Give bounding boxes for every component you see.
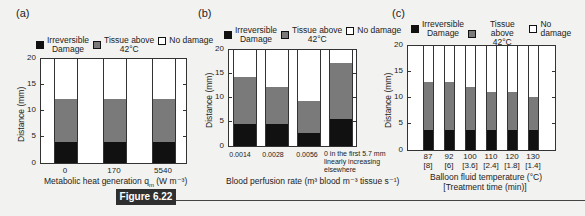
stacked-bar (103, 59, 127, 163)
x-axis-label-b: Blood perfusion rate (m³ blood m⁻³ tissu… (226, 176, 399, 186)
bar-segment-no-damage (266, 50, 288, 87)
bar-segment-tissue-above-42-c (487, 91, 496, 129)
stacked-bar (465, 46, 476, 150)
bar-segment-irreversible-damage (153, 142, 175, 163)
panel-a-label: (a) (16, 7, 29, 19)
bar-segment-irreversible-damage (529, 130, 538, 150)
stacked-bar (486, 46, 497, 150)
bar-segment-irreversible-damage (330, 119, 352, 146)
legend-b: IrreversibleDamage Tissue above42°C No d… (224, 26, 405, 44)
ytick-b: 15 (210, 68, 224, 77)
bar-segment-irreversible-damage (424, 130, 433, 150)
panel-c-label: (c) (392, 7, 405, 19)
ytick-c: 0 (389, 145, 403, 154)
xtick-b: 0.0014 (225, 150, 255, 159)
ytick-a: 5 (22, 131, 36, 140)
tick-mark (41, 136, 44, 137)
ytick-b: 5 (210, 116, 224, 125)
swatch-irreversible-icon (411, 25, 419, 33)
stacked-bar (329, 50, 353, 146)
bar-segment-irreversible-damage (508, 130, 517, 150)
swatch-irreversible-icon (224, 31, 232, 39)
bar-segment-irreversible-damage (445, 130, 454, 150)
ytick-a: 10 (22, 105, 36, 114)
xtick-b: 0.0028 (258, 150, 288, 159)
swatch-none-icon (346, 27, 354, 35)
bar-segment-tissue-above-42-c (424, 81, 433, 129)
legend-item-irreversible: IrreversibleDamage (224, 26, 277, 44)
plot-area-c (407, 45, 556, 151)
bar-segment-tissue-above-42-c (445, 81, 454, 129)
legend-item-irreversible: IrreversibleDamage (36, 36, 89, 54)
bar-segment-no-damage (153, 59, 175, 99)
legend-item-irreversible: IrreversibleDamage (411, 20, 464, 38)
xtick-c: 130[1.4] (521, 152, 545, 170)
bar-segment-irreversible-damage (298, 133, 320, 146)
tick-mark (552, 97, 555, 98)
bar-segment-no-damage (55, 59, 77, 99)
tick-mark (408, 97, 411, 98)
tick-mark (183, 110, 186, 111)
legend-item-tissue: Tissue above42°C (93, 36, 154, 54)
panel-b-label: (b) (198, 7, 211, 19)
bar-segment-irreversible-damage (487, 130, 496, 150)
legend-item-tissue: Tissue above42°C (468, 20, 525, 47)
bar-segment-tissue-above-42-c (330, 62, 352, 119)
bar-segment-no-damage (529, 46, 538, 97)
xtick-a: 5540 (148, 166, 178, 175)
legend-item-none: No damage (346, 26, 401, 35)
bar-segment-no-damage (104, 59, 126, 99)
legend-item-none: No damage (529, 20, 581, 38)
ytick-b: 10 (210, 92, 224, 101)
ytick-a: 15 (22, 79, 36, 88)
tick-mark (408, 71, 411, 72)
bar-segment-tissue-above-42-c (298, 100, 320, 133)
swatch-tissue-icon (468, 30, 476, 38)
legend-item-tissue: Tissue above42°C (281, 26, 342, 44)
bar-segment-irreversible-damage (104, 142, 126, 163)
legend-a: IrreversibleDamage Tissue above42°C No d… (36, 36, 217, 54)
bar-segment-tissue-above-42-c (266, 86, 288, 124)
swatch-tissue-icon (93, 41, 101, 49)
swatch-irreversible-icon (36, 41, 44, 49)
bar-segment-no-damage (466, 46, 475, 87)
bar-segment-irreversible-damage (55, 142, 77, 163)
stacked-bar (444, 46, 455, 150)
bar-segment-tissue-above-42-c (234, 76, 256, 124)
figure-badge: Figure 6.22 (116, 189, 176, 205)
tick-mark (183, 84, 186, 85)
swatch-tissue-icon (281, 31, 289, 39)
plot-area-a (40, 58, 187, 164)
bar-segment-no-damage (508, 46, 517, 92)
tick-mark (408, 123, 411, 124)
bar-segment-tissue-above-42-c (104, 98, 126, 142)
tick-mark (229, 121, 232, 122)
stacked-bar (54, 59, 78, 163)
bar-segment-no-damage (330, 50, 352, 63)
stacked-bar (233, 50, 257, 146)
stacked-bar (528, 46, 539, 150)
stacked-bar (152, 59, 176, 163)
tick-mark (353, 121, 356, 122)
tick-mark (41, 110, 44, 111)
ytick-a: 0 (22, 158, 36, 167)
bar-segment-no-damage (424, 46, 433, 82)
swatch-none-icon (529, 25, 537, 33)
bar-segment-irreversible-damage (466, 130, 475, 150)
ytick-a: 20 (22, 53, 36, 62)
stacked-bar (297, 50, 321, 146)
stacked-bar (423, 46, 434, 150)
bar-segment-tissue-above-42-c (466, 86, 475, 130)
ytick-c: 5 (389, 118, 403, 127)
legend-item-none: No damage (158, 36, 213, 45)
ytick-c: 10 (389, 92, 403, 101)
tick-mark (41, 84, 44, 85)
bar-segment-tissue-above-42-c (153, 98, 175, 142)
xtick-b-last: 0 in the first 5.7 mmlinearly increasing… (324, 150, 385, 174)
bar-segment-no-damage (234, 50, 256, 77)
bar-segment-irreversible-damage (234, 124, 256, 146)
ytick-c: 20 (389, 40, 403, 49)
x-axis-label-a: Metabolic heat generation qm (W m⁻³) (44, 176, 184, 190)
tick-mark (183, 136, 186, 137)
tick-mark (229, 73, 232, 74)
